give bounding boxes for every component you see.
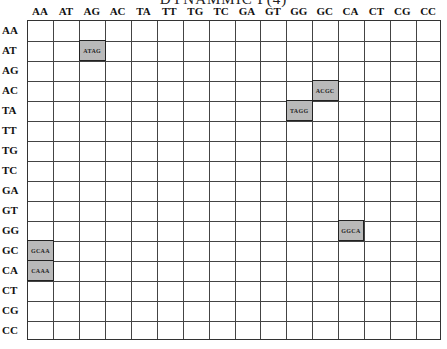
row-header: GT — [2, 200, 26, 220]
column-header: CC — [415, 5, 441, 17]
column-header: GC — [312, 5, 338, 17]
row-header: CG — [2, 300, 26, 320]
column-header: GA — [234, 5, 260, 17]
row-header: GC — [2, 240, 26, 260]
row-header: AA — [2, 20, 26, 40]
column-header: AG — [79, 5, 105, 17]
grid-line — [28, 281, 440, 282]
dinucleotide-grid: ATAGACGCTAGGGGCAGCAACAAA — [27, 20, 441, 340]
filled-cell: GCAA — [27, 240, 54, 261]
column-header: TG — [182, 5, 208, 17]
grid-line — [312, 21, 313, 339]
grid-line — [364, 21, 365, 339]
grid-line — [28, 181, 440, 182]
column-header: CG — [389, 5, 415, 17]
column-header: CA — [338, 5, 364, 17]
grid-line — [390, 21, 391, 339]
column-header: AC — [105, 5, 131, 17]
grid-line — [28, 261, 440, 262]
filled-cell: ATAG — [79, 40, 106, 61]
column-header: AT — [53, 5, 79, 17]
grid-line — [416, 21, 417, 339]
row-header: GG — [2, 220, 26, 240]
row-header: TG — [2, 140, 26, 160]
grid-line — [260, 21, 261, 339]
grid-line — [28, 321, 440, 322]
row-header: CC — [2, 320, 26, 340]
column-header: TA — [131, 5, 157, 17]
grid-line — [286, 21, 287, 339]
column-header: GT — [260, 5, 286, 17]
row-header: TT — [2, 120, 26, 140]
column-header: GG — [286, 5, 312, 17]
row-header: GA — [2, 180, 26, 200]
filled-cell: TAGG — [286, 100, 313, 121]
row-header: AG — [2, 60, 26, 80]
row-header: CA — [2, 260, 26, 280]
column-header: TT — [156, 5, 182, 17]
grid-line — [338, 21, 339, 339]
filled-cell: ACGC — [312, 80, 339, 101]
row-header: TA — [2, 100, 26, 120]
grid-line — [28, 201, 440, 202]
grid-line — [28, 221, 440, 222]
grid-line — [28, 301, 440, 302]
filled-cell: CAAA — [27, 260, 54, 281]
grid-line — [28, 241, 440, 242]
column-header: AA — [27, 5, 53, 17]
filled-cell: GGCA — [338, 220, 365, 241]
row-header: AT — [2, 40, 26, 60]
column-header: CT — [363, 5, 389, 17]
row-header: AC — [2, 80, 26, 100]
row-header: TC — [2, 160, 26, 180]
column-header: TC — [208, 5, 234, 17]
row-header: CT — [2, 280, 26, 300]
